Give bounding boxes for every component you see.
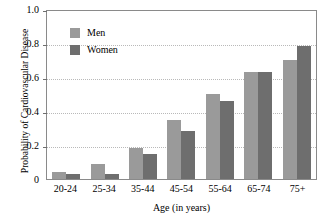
bar-men-35-44 [129,148,143,179]
y-tick-label: 0.8 [3,39,39,49]
x-tick-label: 45-54 [162,183,200,194]
legend: MenWomen [70,24,118,58]
bar-men-65-74 [244,72,258,179]
legend-swatch-icon [70,28,80,38]
bar-group [129,11,157,179]
legend-label: Women [87,44,118,55]
y-tick-label: 0.6 [3,73,39,83]
legend-item-women: Women [70,41,118,58]
x-tick-label: 20-24 [46,183,84,194]
bar-women-75+ [297,46,311,179]
y-tick-label: 0.4 [3,107,39,117]
y-tick-label: 1.0 [3,5,39,15]
bar-men-25-34 [91,164,105,179]
bar-women-55-64 [220,101,234,179]
y-tick-label: 0.2 [3,141,39,151]
x-tick-label: 55-64 [201,183,239,194]
bar-group [283,11,311,179]
bar-women-65-74 [258,72,272,179]
bar-men-55-64 [206,94,220,179]
x-tick-label: 75+ [279,183,317,194]
bar-men-20-24 [52,172,66,179]
x-axis-title: Age (in years) [46,202,317,213]
bar-group [167,11,195,179]
y-tick-label: 0 [3,175,39,185]
legend-swatch-icon [70,45,80,55]
bar-women-20-24 [66,174,80,179]
bar-women-45-54 [181,131,195,179]
bar-group [244,11,272,179]
x-tick-label: 35-44 [124,183,162,194]
bar-men-75+ [283,60,297,179]
legend-label: Men [87,27,105,38]
legend-item-men: Men [70,24,118,41]
bar-women-35-44 [143,154,157,179]
x-tick-label: 65-74 [240,183,278,194]
x-axis-tick-labels: 20-2425-3435-4445-5455-6465-7475+ [46,183,317,194]
bar-men-45-54 [167,120,181,180]
bar-group [206,11,234,179]
bar-women-25-34 [105,174,119,179]
x-tick-label: 25-34 [85,183,123,194]
bar-chart-figure: Probability of Cardiovascular Disease 00… [0,0,328,222]
